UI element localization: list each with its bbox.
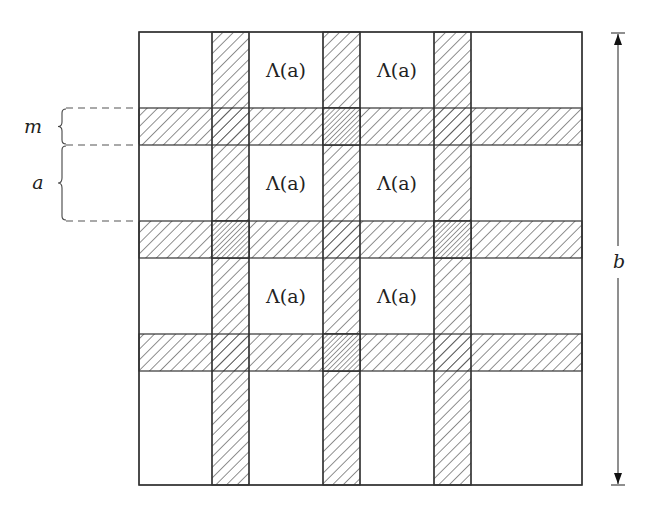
dense-crossing-cell [323, 334, 360, 371]
brace-label-m: m [24, 115, 42, 137]
brace-m [58, 109, 66, 144]
braces [58, 109, 66, 220]
grid-diagram: Λ(a) Λ(a) Λ(a) Λ(a) Λ(a) Λ(a) m a b [0, 0, 653, 505]
arrowhead-down-icon [614, 473, 622, 484]
cell-label-lambda: Λ(a) [265, 172, 306, 194]
dashed-guides [66, 108, 139, 221]
cell-label-lambda: Λ(a) [376, 285, 417, 307]
cell-label-lambda: Λ(a) [376, 59, 417, 81]
dense-crossing-cell [434, 221, 471, 258]
dense-crossing-cell [212, 221, 249, 258]
dense-crossing-cell [323, 108, 360, 145]
cell-label-lambda: Λ(a) [265, 59, 306, 81]
cell-label-lambda: Λ(a) [265, 285, 306, 307]
dimension-label-b: b [613, 250, 625, 272]
brace-label-a: a [32, 171, 43, 193]
arrowhead-up-icon [614, 34, 622, 45]
brace-a [58, 146, 66, 220]
cell-label-lambda: Λ(a) [376, 172, 417, 194]
